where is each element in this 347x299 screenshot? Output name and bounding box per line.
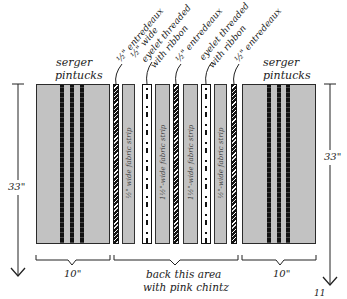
ribbon-pattern (205, 85, 207, 243)
left-width-label: 10" (64, 268, 81, 280)
right-pintuck-panel (242, 84, 316, 244)
fabric-strip-1-5-inch-1: 1½"-wide fabric strip (155, 84, 170, 244)
left-pintuck-panel (36, 84, 110, 244)
strip-label: 1½"-wide fabric strip (159, 126, 167, 200)
eyelet-ribbon-strip-1 (142, 84, 152, 244)
strip-label: ½"-wide fabric strip (217, 127, 225, 199)
page-number: 11 (314, 287, 325, 299)
left-panel-label-line2: pintucks (55, 70, 103, 82)
entredeaux-strip-2 (173, 84, 179, 244)
fabric-strip-half-inch-2: ½"-wide fabric strip (214, 84, 227, 244)
eyelet-ribbon-strip-2 (201, 84, 211, 244)
right-width-label: 10" (273, 268, 290, 280)
center-note-line1: back this area (146, 268, 221, 280)
entredeaux-strip-1 (113, 84, 119, 244)
strip-label: ½" wide fabric strip (125, 127, 133, 199)
left-height-label: 33" (8, 181, 25, 193)
ribbon-pattern (146, 85, 148, 243)
center-note-line2: with pink chintz (143, 281, 229, 293)
pintuck (80, 85, 84, 243)
left-panel-label-line1: serger (56, 57, 92, 69)
right-panel-label-line1: serger (263, 57, 299, 69)
entredeaux-strip-3 (231, 84, 237, 244)
strip-label: 1½"-wide fabric strip (187, 126, 195, 200)
fabric-strip-1-5-inch-2: 1½"-wide fabric strip (183, 84, 198, 244)
pintuck (60, 85, 64, 243)
fabric-strip-half-inch-1: ½" wide fabric strip (122, 84, 135, 244)
pintuck (286, 85, 290, 243)
pintuck (267, 85, 271, 243)
right-panel-label-line2: pintucks (263, 70, 311, 82)
pintuck (277, 85, 281, 243)
right-height-label: 33" (324, 151, 341, 163)
pintuck (70, 85, 74, 243)
